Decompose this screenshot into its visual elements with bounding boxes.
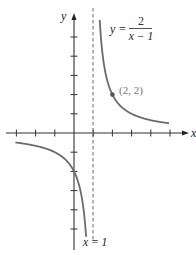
y-axis-arrow-icon <box>72 13 77 20</box>
curve-left-branch <box>15 142 86 236</box>
point-label: (2, 2) <box>119 84 143 97</box>
equation-lhs: y = <box>109 22 126 36</box>
y-axis-label: y <box>60 9 67 23</box>
axes <box>6 13 189 250</box>
highlighted-point <box>110 92 115 97</box>
equation-numerator: 2 <box>138 14 144 28</box>
graph: x y y = 2 x − 1 (2, 2) x = 1 <box>0 0 196 255</box>
equation-label: y = 2 x − 1 <box>109 14 153 42</box>
x-axis-label: x <box>190 126 196 140</box>
x-axis-arrow-icon <box>182 131 189 136</box>
asymptote-label: x = 1 <box>82 236 107 248</box>
equation-denominator: x − 1 <box>128 30 153 42</box>
